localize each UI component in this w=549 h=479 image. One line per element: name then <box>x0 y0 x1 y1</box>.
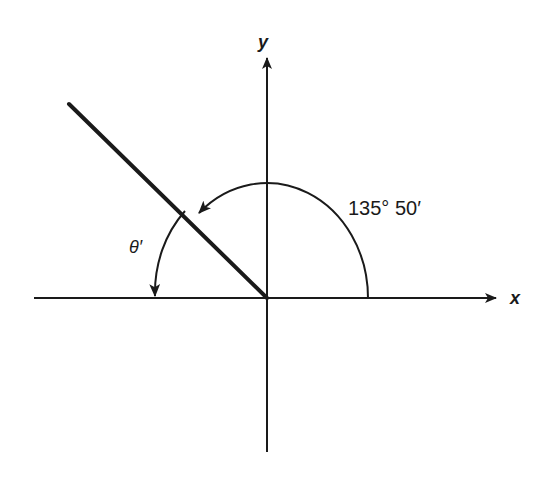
x-axis-label: x <box>509 288 521 308</box>
terminal-side-ray <box>69 104 267 298</box>
y-axis-label: y <box>257 32 269 52</box>
angle-label: 135° 50′ <box>348 197 421 219</box>
angle-arc-135-50 <box>199 183 368 298</box>
reference-angle-label: θ′ <box>129 237 143 257</box>
reference-angle-arc <box>155 211 185 296</box>
diagram-canvas: y x 135° 50′ θ′ <box>0 0 549 479</box>
